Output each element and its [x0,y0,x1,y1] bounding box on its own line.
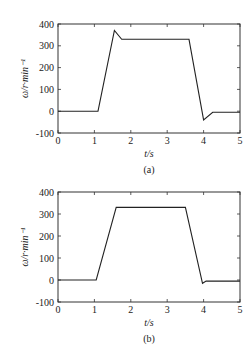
x-tick-label: 2 [128,304,133,315]
x-tick-label: 3 [165,135,170,146]
y-tick-label: 0 [49,106,54,117]
speed-chart-b: 012345-1000100200300400t/sω/r·min⁻¹(b) [0,176,249,352]
y-axis-label: ω/r·min⁻¹ [19,59,30,98]
y-tick-label: 100 [39,84,54,95]
x-tick-label: 5 [238,135,243,146]
x-axis-label: t/s [144,317,154,328]
x-tick-label: 2 [128,135,133,146]
figure-caption: (a) [143,164,154,176]
x-tick-label: 3 [165,304,170,315]
y-tick-label: -100 [36,297,54,308]
plot-frame [58,24,240,133]
speed-chart-a: 012345-1000100200300400t/sω/r·min⁻¹(a) [0,0,249,178]
y-tick-label: 300 [39,209,54,220]
x-tick-label: 0 [56,304,61,315]
plot-frame [58,192,240,302]
y-tick-label: 400 [39,19,54,30]
x-tick-label: 5 [238,304,243,315]
x-tick-label: 1 [92,135,97,146]
y-tick-label: 200 [39,231,54,242]
y-tick-label: 0 [49,275,54,286]
y-tick-label: 300 [39,40,54,51]
x-tick-label: 4 [201,135,206,146]
y-tick-label: -100 [36,128,54,139]
y-axis-label: ω/r·min⁻¹ [19,227,30,266]
y-tick-label: 200 [39,62,54,73]
figure-caption: (b) [143,333,155,345]
y-tick-label: 400 [39,187,54,198]
series-line-speed [58,31,240,120]
x-tick-label: 0 [56,135,61,146]
x-tick-label: 4 [201,304,206,315]
series-line-speed [58,207,240,283]
x-axis-label: t/s [144,148,154,159]
y-tick-label: 100 [39,253,54,264]
x-tick-label: 1 [92,304,97,315]
